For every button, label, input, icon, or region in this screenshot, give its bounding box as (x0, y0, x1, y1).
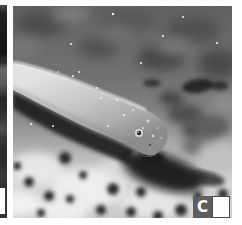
adjacent-panel-edge (0, 5, 7, 218)
photo-panel-c: C (13, 6, 232, 218)
panel-label: C (193, 196, 212, 218)
film-grain (13, 6, 232, 218)
underwater-photo (13, 6, 232, 218)
panel-label-text: C (197, 198, 208, 216)
adjacent-scale-marker (0, 187, 6, 215)
figure-panel: C (0, 0, 242, 225)
scale-marker (212, 196, 230, 218)
